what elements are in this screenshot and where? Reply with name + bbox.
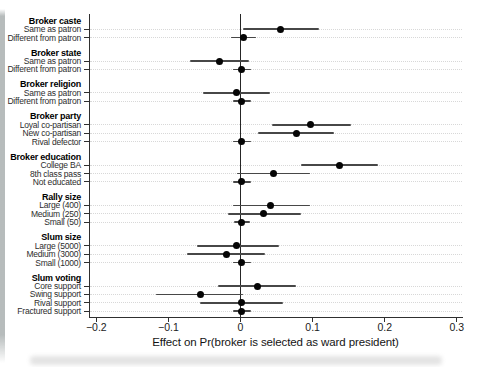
y-axis-tick xyxy=(84,254,89,255)
point-estimate-dot xyxy=(238,259,245,266)
y-axis-tick xyxy=(84,205,89,206)
point-estimate-dot xyxy=(240,34,247,41)
y-axis-tick xyxy=(84,173,89,174)
y-axis-tick xyxy=(84,294,89,295)
row-gridline xyxy=(90,222,462,223)
coef-row-label: Fractured support xyxy=(0,306,81,316)
y-axis-tick xyxy=(84,286,89,287)
row-gridline xyxy=(90,294,462,295)
y-axis-tick xyxy=(84,302,89,303)
row-gridline xyxy=(90,92,462,93)
point-estimate-dot xyxy=(254,283,261,290)
page-edge-artifact xyxy=(0,9,5,363)
coef-row-label: Different from patron xyxy=(0,64,81,74)
point-estimate-dot xyxy=(267,202,274,209)
row-gridline xyxy=(90,101,462,102)
coef-row-label: Different from patron xyxy=(0,96,81,106)
point-estimate-dot xyxy=(293,130,300,137)
point-estimate-dot xyxy=(336,162,343,169)
y-axis-tick xyxy=(84,101,89,102)
y-axis-tick xyxy=(84,213,89,214)
y-axis-tick xyxy=(84,141,89,142)
y-axis-tick xyxy=(84,262,89,263)
point-estimate-dot xyxy=(238,66,245,73)
point-estimate-dot xyxy=(270,170,277,177)
point-estimate-dot xyxy=(197,291,204,298)
y-axis-tick xyxy=(84,61,89,62)
point-estimate-dot xyxy=(307,121,314,128)
y-axis-tick xyxy=(84,29,89,30)
x-axis-tick-label: 0.2 xyxy=(377,321,392,333)
point-estimate-dot xyxy=(216,58,223,65)
blurred-caption-artifact xyxy=(30,356,442,365)
point-estimate-dot xyxy=(233,242,240,249)
coefficient-plot-figure: −0.2−0.100.10.20.3Broker casteSame as pa… xyxy=(0,0,480,367)
x-axis-line xyxy=(89,317,463,318)
point-estimate-dot xyxy=(238,138,245,145)
row-gridline xyxy=(90,37,462,38)
x-axis-tick-label: 0.3 xyxy=(449,321,464,333)
coef-row-label: Small (50) xyxy=(0,217,81,227)
x-axis-tick-label: −0.2 xyxy=(86,321,107,333)
y-axis-tick xyxy=(84,311,89,312)
x-axis-tick-label: 0 xyxy=(238,321,244,333)
coef-row-label: Not educated xyxy=(0,177,81,187)
y-axis-tick xyxy=(84,92,89,93)
row-gridline xyxy=(90,254,462,255)
point-estimate-dot xyxy=(223,251,230,258)
point-estimate-dot xyxy=(238,299,245,306)
coef-row-label: Small (1000) xyxy=(0,258,81,268)
row-gridline xyxy=(90,181,462,182)
point-estimate-dot xyxy=(238,308,245,315)
row-gridline xyxy=(90,262,462,263)
row-gridline xyxy=(90,311,462,312)
y-axis-tick xyxy=(84,165,89,166)
x-axis-title: Effect on Pr(broker is selected as ward … xyxy=(89,336,462,348)
point-estimate-dot xyxy=(238,178,245,185)
point-estimate-dot xyxy=(238,219,245,226)
y-axis-tick xyxy=(84,222,89,223)
point-estimate-dot xyxy=(260,210,267,217)
y-axis-tick xyxy=(84,245,89,246)
coef-row-label: Rival defector xyxy=(0,137,81,147)
row-gridline xyxy=(90,141,462,142)
y-axis-tick xyxy=(84,37,89,38)
y-axis-tick xyxy=(84,69,89,70)
row-gridline xyxy=(90,69,462,70)
point-estimate-dot xyxy=(238,98,245,105)
y-axis-tick xyxy=(84,181,89,182)
y-axis-tick xyxy=(84,124,89,125)
x-axis-tick-label: −0.1 xyxy=(158,321,179,333)
y-axis-tick xyxy=(84,133,89,134)
point-estimate-dot xyxy=(277,26,284,33)
row-gridline xyxy=(90,165,462,166)
row-gridline xyxy=(90,61,462,62)
coef-row-label: Different from patron xyxy=(0,33,81,43)
x-axis-tick-label: 0.1 xyxy=(305,321,320,333)
